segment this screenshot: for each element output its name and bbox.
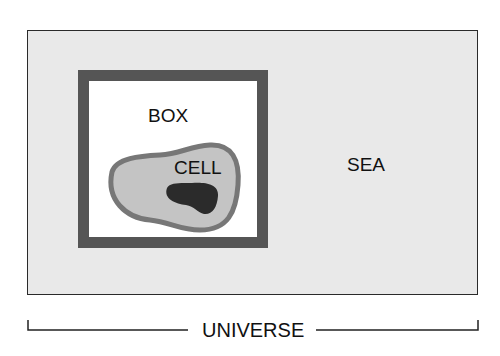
universe-bracket xyxy=(0,0,500,356)
universe-label: UNIVERSE xyxy=(202,320,304,340)
